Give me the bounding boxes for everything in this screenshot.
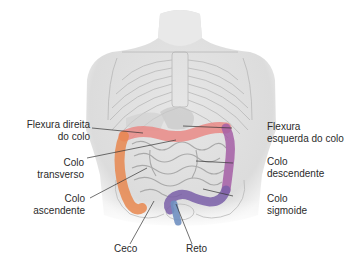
label-line: Colo [267,156,324,168]
label-ceco: Ceco [114,243,137,255]
descending-colon [226,128,231,190]
label-line: esquerda do colo [267,133,344,145]
label-flexura-esquerda-do-colo: Flexura esquerda do colo [267,121,344,145]
label-line: transverso [14,169,84,181]
label-line: sigmoide [267,205,307,217]
label-line: Flexura direita [14,119,90,131]
label-line: ascendente [14,205,85,217]
label-colo-ascendente: Colo ascendente [14,193,85,217]
label-line: do colo [14,131,90,143]
label-line: Reto [186,243,207,255]
label-colo-sigmoide: Colo sigmoide [267,193,307,217]
label-line: Flexura [267,121,344,133]
label-flexura-direita-do-colo: Flexura direita do colo [14,119,90,143]
label-line: Colo [267,193,307,205]
label-line: Colo [14,157,84,169]
label-line: descendente [267,168,324,180]
label-line: Ceco [114,243,137,255]
label-line: Colo [14,193,85,205]
label-colo-transverso: Colo transverso [14,157,84,181]
label-colo-descendente: Colo descendente [267,156,324,180]
label-reto: Reto [186,243,207,255]
